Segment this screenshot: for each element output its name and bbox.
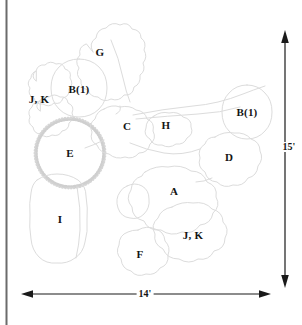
canopy-crease-I xyxy=(76,186,80,258)
branch-line-upper-right-2 xyxy=(136,107,240,119)
canopy-outline-A xyxy=(128,166,218,234)
plant-label-B1-right: B(1) xyxy=(237,107,258,118)
plant-label-D: D xyxy=(225,152,233,163)
planting-plan-diagram: G B(1) J, K B(1) C H E D A I J, K F 14' … xyxy=(0,0,302,325)
height-arrowhead-bottom xyxy=(281,275,289,288)
plant-label-G: G xyxy=(96,47,105,58)
plant-label-B1-left: B(1) xyxy=(69,84,90,95)
branch-line-C-down xyxy=(130,143,200,154)
plant-label-A: A xyxy=(170,186,178,197)
plant-label-H: H xyxy=(162,120,171,131)
width-arrowhead-right xyxy=(259,290,271,298)
plant-label-F: F xyxy=(137,249,144,260)
height-dimension-label: 15' xyxy=(281,142,298,152)
plant-label-JK-left: J, K xyxy=(29,94,49,105)
canopy-crease-G xyxy=(111,40,130,102)
width-dimension-label: 14' xyxy=(137,289,154,299)
dimension-arrows xyxy=(21,30,289,298)
plant-label-E: E xyxy=(66,148,74,159)
plant-label-I: I xyxy=(58,214,62,225)
plant-label-JK-lower: J, K xyxy=(183,230,203,241)
plan-drawing-canvas xyxy=(0,0,302,325)
width-arrowhead-left xyxy=(21,290,33,298)
plant-label-C: C xyxy=(123,121,131,132)
height-arrowhead-top xyxy=(281,30,289,43)
